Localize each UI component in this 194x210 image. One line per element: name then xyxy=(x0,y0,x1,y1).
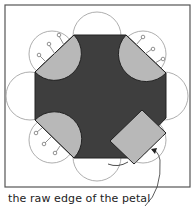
caption: the raw edge of the petal xyxy=(8,192,150,205)
petal-diagram xyxy=(0,0,194,210)
